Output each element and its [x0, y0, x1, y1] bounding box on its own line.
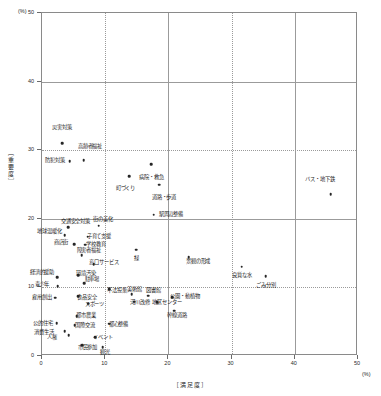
data-point-label: バス・地下鉄: [305, 178, 334, 183]
data-point-label: 図書館: [146, 288, 161, 293]
data-point[interactable]: [98, 224, 101, 227]
gridline-vertical: [295, 13, 296, 354]
x-axis-tick-label: 40: [291, 360, 297, 366]
plot-area: 災害対策防犯対策高齢者福祉病院・救急町づくり道路・歩道バス・地下鉄駅周辺整備交通…: [41, 12, 357, 355]
data-point-label: 市民参加: [78, 345, 98, 350]
y-axis-tick-label: 40: [28, 78, 34, 84]
data-point[interactable]: [61, 142, 64, 145]
x-axis-tick-mark: [104, 355, 105, 359]
data-point-label: 窓口サービス: [89, 260, 118, 265]
x-axis-tick-mark: [294, 355, 295, 359]
y-axis-tick-label: 50: [28, 9, 34, 15]
data-point-label: 景観の形成: [186, 259, 211, 264]
gridline-horizontal: [42, 82, 356, 83]
data-point[interactable]: [330, 193, 333, 196]
x-axis-tick-label: 0: [39, 360, 42, 366]
x-axis-title: ［満足度］: [0, 380, 381, 389]
data-point[interactable]: [63, 330, 66, 333]
y-axis-tick-label: 20: [28, 215, 34, 221]
data-point-label: 経済的援助: [30, 270, 55, 275]
y-axis-tick-label: 10: [28, 283, 34, 289]
x-axis-unit: (%): [362, 371, 371, 377]
x-axis-tick-label: 50: [354, 360, 360, 366]
y-axis-tick-label: 0: [31, 352, 34, 358]
y-axis-tick-label: 30: [28, 146, 34, 152]
data-point-label: 美術館: [127, 287, 142, 292]
data-point-label: 河川改修: [130, 301, 150, 306]
data-point-label: 町づくり: [116, 187, 136, 192]
data-point-label: 青少年: [35, 282, 50, 287]
data-point[interactable]: [240, 266, 243, 269]
data-point-label: 雇用創出: [32, 295, 52, 300]
data-point-label: 地区センター: [152, 301, 181, 306]
data-point-label: 都心整備: [109, 322, 129, 327]
data-point-label: 障害者福祉: [77, 248, 102, 253]
data-point-label: スポーツ: [85, 302, 105, 307]
data-point-label: 駅周辺整備: [159, 212, 184, 217]
data-point-label: 観光: [100, 350, 110, 355]
data-point[interactable]: [73, 243, 76, 246]
gridline-vertical: [105, 13, 106, 354]
data-point-label: 街の美化: [93, 218, 113, 223]
x-axis-tick-mark: [41, 355, 42, 359]
data-point[interactable]: [55, 322, 58, 325]
gridline-vertical: [232, 13, 233, 354]
gridline-horizontal: [42, 287, 356, 288]
data-point-label: 交通安全対策: [61, 219, 90, 224]
data-point[interactable]: [153, 213, 156, 216]
data-point[interactable]: [56, 276, 59, 279]
data-point-label: 駐車場: [85, 277, 100, 282]
data-point-label: 災害対策: [52, 126, 72, 131]
x-axis-tick-mark: [231, 355, 232, 359]
data-point-label: 公的住宅: [33, 321, 53, 326]
data-point[interactable]: [67, 334, 70, 337]
data-point-label: 防犯対策: [45, 159, 65, 164]
data-point-label: 不法投棄: [107, 288, 127, 293]
data-point-label: 人権: [47, 336, 57, 341]
data-point-label: イベント: [93, 336, 113, 341]
data-point-label: 商店街: [54, 241, 69, 246]
data-point-label: 地球温暖化: [37, 229, 62, 234]
data-point[interactable]: [67, 226, 70, 229]
data-point-label: 食品安全: [77, 295, 97, 300]
data-point[interactable]: [54, 296, 57, 299]
x-axis-tick-mark: [357, 355, 358, 359]
data-point-label: 都市農業: [76, 314, 96, 319]
data-point[interactable]: [147, 294, 150, 297]
data-point[interactable]: [158, 183, 161, 186]
data-point[interactable]: [63, 234, 66, 237]
gridline-horizontal: [42, 150, 356, 151]
x-axis-tick-mark: [167, 355, 168, 359]
data-point[interactable]: [69, 160, 72, 163]
x-axis-tick-label: 30: [228, 360, 234, 366]
data-point-label: 高齢者福祉: [78, 145, 103, 150]
data-point-label: 国際交流: [75, 323, 95, 328]
y-axis-unit: (%): [18, 8, 27, 14]
x-axis-tick-label: 10: [101, 360, 107, 366]
x-axis-tick-label: 20: [164, 360, 170, 366]
data-point[interactable]: [82, 159, 85, 162]
data-point[interactable]: [150, 163, 153, 166]
data-point[interactable]: [135, 248, 138, 251]
data-point[interactable]: [130, 293, 133, 296]
data-point-label: ごみ分別: [256, 283, 276, 288]
data-point-label: 病院・救急: [139, 175, 164, 180]
data-point[interactable]: [264, 275, 267, 278]
data-point-label: 幹線道路: [167, 313, 187, 318]
data-point-label: 緑: [134, 257, 139, 262]
data-point[interactable]: [128, 175, 131, 178]
data-point[interactable]: [57, 285, 60, 288]
data-point-label: 子育て支援: [87, 234, 112, 239]
data-point-label: 良質な水: [232, 273, 252, 278]
data-point[interactable]: [81, 254, 84, 257]
y-axis-title: ［重要度］: [6, 150, 15, 185]
scatter-chart: (%) (%) ［重要度］ ［満足度］ 01020304050010203040…: [0, 0, 381, 396]
data-point-label: 道路・歩道: [152, 195, 177, 200]
